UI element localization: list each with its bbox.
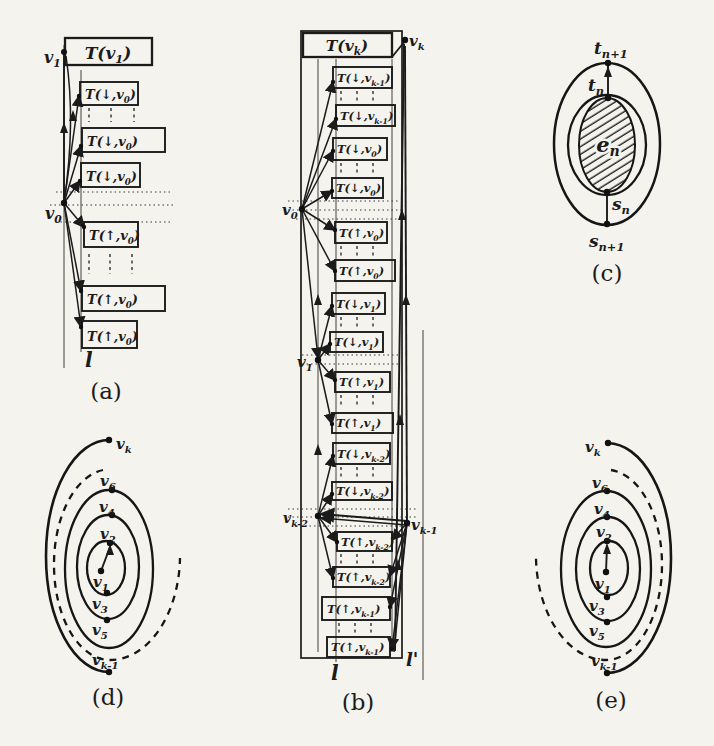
edge-fan [64, 96, 79, 203]
panel-e: vk v6 v4 v2 v1 v3 v5 vk-1 (e) [536, 438, 671, 713]
edge-fan [64, 203, 81, 327]
attach-dot [79, 325, 83, 329]
label-v0: v0 [282, 201, 298, 221]
ellipsis-separator [341, 317, 373, 328]
vertex-dot-v0 [299, 206, 305, 212]
attach-dot [79, 289, 83, 293]
vertex-dot-tn [605, 95, 611, 101]
tree-box-label: T(↑,vk-2) [341, 535, 394, 552]
tree-box-label: T(↑,v0) [87, 329, 138, 347]
tree-box: T(↓,v0) [332, 178, 383, 198]
tree-box: T(↓,vk-1) [333, 67, 392, 88]
tree-box-label: T(↑,vk-2) [337, 570, 390, 587]
attach-dot [82, 225, 86, 229]
attach-dot [330, 189, 334, 193]
figure-canvas: T(v1) T(↓,v0) T(↓,v0) T(↓,v0) T(↑,v0) T(… [0, 0, 714, 746]
ellipsis-separator [341, 554, 373, 564]
label-tn: tn [588, 75, 604, 98]
caption-b: (b) [342, 689, 375, 715]
tree-box-label: T(↓,v0) [337, 142, 382, 159]
caption-d: (d) [92, 684, 125, 710]
tree-box: T(↓,vk-1) [336, 105, 395, 126]
ellipsis-separator [341, 467, 373, 478]
tree-box-label: T(↑,v1) [336, 416, 381, 433]
tree-box: T(↓,v0) [81, 163, 140, 187]
caption-e: (e) [595, 687, 627, 713]
up-arrow-icon [314, 444, 322, 455]
vertex-dot-vk [106, 437, 112, 443]
vertex-dot-vk [605, 440, 611, 446]
tree-box-label: T(↑,v0) [339, 226, 384, 243]
attach-dot [79, 144, 83, 148]
label-vk: vk [409, 32, 425, 52]
edge-fan [64, 146, 81, 203]
tree-box: T(↓,vk-2) [333, 443, 390, 464]
tree-box: T(↓,v0) [333, 138, 387, 160]
attach-dot [330, 422, 334, 426]
tree-box: T(↓,vk-2) [332, 482, 392, 501]
label-v1: v1 [595, 575, 611, 595]
tree-box-label: T(↑,v0) [89, 228, 140, 246]
spiral-dashed-turn [54, 470, 180, 660]
label-v5: v5 [589, 622, 605, 642]
attach-dot [331, 576, 335, 580]
edge-fan [318, 360, 332, 424]
attach-dot [388, 605, 392, 609]
label-v1: v1 [44, 48, 61, 70]
tree-box: T(↓,v1) [332, 293, 385, 314]
panel-c: tn+1 tn en sn sn+1 (c) [554, 38, 660, 286]
tree-box-label: T(↓,v0) [336, 181, 381, 198]
tree-box: T(↑,vk-2) [337, 532, 394, 552]
vertex-dot-sn [604, 189, 610, 195]
ellipsis-separator [89, 254, 132, 274]
ellipsis-separator [341, 91, 373, 102]
tree-box: T(↑,vk-1) [322, 597, 390, 620]
tree-box-root-a: T(v1) [65, 38, 152, 66]
attach-dot [333, 228, 337, 232]
label-vk: vk [116, 435, 132, 455]
tree-box-label: T(↓,vk-2) [337, 447, 390, 464]
panel-b: T(vk) T(↓,vk-1) T(↓,vk-1) T(↓,v0) T(↓,v0… [282, 31, 437, 715]
tree-box: T(↑,vk-2) [333, 567, 390, 587]
scanned-paper-figure: T(v1) T(↓,v0) T(↓,v0) T(↓,v0) T(↑,v0) T(… [0, 0, 714, 746]
vertex-dot-sn1 [604, 221, 610, 227]
attach-dot [331, 149, 335, 153]
attach-dot [330, 304, 334, 308]
attach-dot [331, 80, 335, 84]
label-line-l: l [331, 661, 339, 685]
tree-box: T(↑,v0) [335, 260, 395, 281]
tree-box-label: T(↑,vk-1) [327, 602, 380, 619]
label-vk2: vk-2 [283, 510, 308, 529]
tree-box: T(↑,v0) [84, 222, 140, 247]
panel-a: T(v1) T(↓,v0) T(↓,v0) T(↓,v0) T(↑,v0) T(… [44, 38, 174, 404]
label-sn: sn [611, 194, 630, 217]
tree-box: T(↓,v0) [82, 128, 165, 152]
attach-dot [78, 179, 82, 183]
tree-box-label: T(↓,v0) [85, 87, 136, 105]
vertex-dot-v5 [604, 619, 610, 625]
tree-box: T(↑,v1) [332, 413, 393, 433]
tree-box: T(↓,v0) [80, 82, 138, 105]
label-vk1: vk-1 [411, 516, 437, 536]
tree-box-label: T(↓,v1) [336, 297, 381, 314]
vertex-dot-v0 [61, 200, 67, 206]
attach-dot [334, 117, 338, 121]
ellipsis-separator [89, 108, 134, 122]
tree-box-label: T(↑,v0) [339, 264, 384, 281]
label-v2: v2 [596, 523, 612, 543]
tree-box: T(↓,v1) [330, 332, 383, 352]
vertex-dot-vk [402, 37, 408, 43]
tree-box-label: T(↓,vk-1) [337, 71, 390, 88]
label-line-l-prime: l' [406, 649, 418, 670]
tree-box-label: T(↑,v1) [339, 375, 384, 392]
up-arrow-icon [603, 543, 611, 554]
attach-dot [390, 647, 394, 651]
label-vk1: vk-1 [591, 652, 617, 672]
tree-box: T(↑,v0) [82, 321, 138, 348]
vertex-dot-v1 [603, 569, 609, 575]
vertex-dot-vk1 [404, 520, 410, 526]
label-v5: v5 [92, 621, 108, 641]
attach-dot [330, 492, 334, 496]
ellipsis-separator [339, 623, 371, 633]
label-v4: v4 [594, 500, 610, 520]
